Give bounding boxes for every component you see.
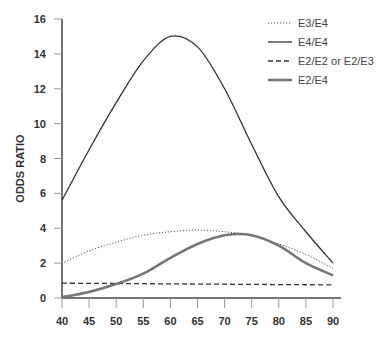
x-tick-label: 90 — [327, 315, 339, 327]
y-tick-label: 10 — [34, 118, 46, 130]
line-chart: 02468101214164045505560657075808590ODDS … — [0, 0, 376, 340]
y-tick-label: 4 — [40, 222, 47, 234]
y-tick-label: 14 — [34, 48, 47, 60]
x-tick-label: 60 — [164, 315, 176, 327]
x-tick-label: 75 — [246, 315, 258, 327]
series-line-e2-e4 — [62, 234, 333, 297]
series-line-e3-e4 — [62, 230, 333, 268]
y-tick-label: 0 — [40, 292, 46, 304]
y-tick-label: 16 — [34, 13, 46, 25]
x-tick-label: 80 — [273, 315, 285, 327]
legend-label: E2/E4 — [298, 74, 328, 86]
chart-container: 02468101214164045505560657075808590ODDS … — [0, 0, 376, 340]
legend-label: E4/E4 — [298, 36, 328, 48]
x-tick-label: 85 — [300, 315, 312, 327]
series-line-e2-e2-or-e2-e3 — [62, 283, 333, 285]
x-tick-label: 45 — [83, 315, 95, 327]
y-tick-label: 6 — [40, 187, 46, 199]
y-axis-label: ODDS RATIO — [14, 134, 26, 203]
y-tick-label: 2 — [40, 257, 46, 269]
legend-label: E3/E4 — [298, 17, 328, 29]
legend-label: E2/E2 or E2/E3 — [298, 55, 374, 67]
x-tick-label: 55 — [137, 315, 149, 327]
x-tick-label: 40 — [56, 315, 68, 327]
y-tick-label: 12 — [34, 83, 46, 95]
x-tick-label: 70 — [218, 315, 230, 327]
y-tick-label: 8 — [40, 153, 46, 165]
series-line-e4-e4 — [62, 36, 333, 263]
x-tick-label: 50 — [110, 315, 122, 327]
x-tick-label: 65 — [191, 315, 203, 327]
